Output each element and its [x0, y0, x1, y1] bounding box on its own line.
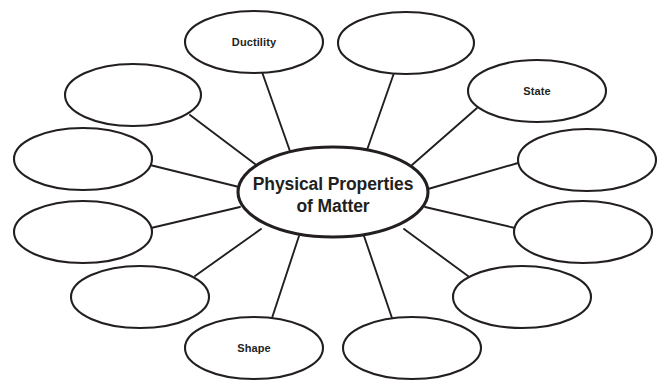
connector-line [262, 72, 291, 154]
blank-node[interactable] [343, 317, 481, 379]
node-ellipse[interactable] [71, 266, 209, 328]
center-node-label-line2: of Matter [297, 196, 370, 216]
node-label: State [523, 85, 550, 97]
connector-line [364, 236, 392, 318]
connector-line [195, 229, 261, 276]
connector-line [425, 207, 515, 228]
blank-node[interactable] [71, 266, 209, 328]
node-ellipse[interactable] [14, 128, 152, 190]
node-ellipse[interactable] [343, 317, 481, 379]
blank-node[interactable] [65, 64, 201, 126]
connector-line [367, 73, 394, 150]
connector-line [428, 163, 518, 189]
labeled-node[interactable]: Ductility [185, 11, 323, 73]
bubble-map-diagram: DuctilityStateShape Physical Properties … [0, 0, 668, 386]
center-node[interactable]: Physical Properties of Matter [238, 147, 428, 237]
blank-node[interactable] [453, 266, 591, 328]
connector-line [412, 108, 477, 165]
labeled-node[interactable]: State [468, 60, 606, 122]
connector-line [151, 207, 240, 228]
blank-node[interactable] [518, 129, 656, 191]
bubble-map-canvas: DuctilityStateShape Physical Properties … [0, 0, 668, 386]
connector-line [404, 229, 468, 276]
node-label: Ductility [232, 36, 277, 48]
blank-node[interactable] [14, 128, 152, 190]
node-label: Shape [237, 342, 271, 354]
node-ellipse[interactable] [518, 129, 656, 191]
node-ellipse[interactable] [14, 201, 152, 263]
blank-node[interactable] [14, 201, 152, 263]
node-ellipse[interactable] [338, 12, 474, 74]
labeled-node[interactable]: Shape [185, 317, 323, 379]
node-ellipse[interactable] [65, 64, 201, 126]
center-node-label-line1: Physical Properties [253, 174, 414, 194]
connector-line [190, 115, 255, 164]
blank-node[interactable] [338, 12, 474, 74]
blank-node[interactable] [514, 201, 652, 263]
node-ellipse[interactable] [514, 201, 652, 263]
connector-line [150, 165, 239, 187]
connector-line [272, 236, 299, 318]
node-ellipse[interactable] [453, 266, 591, 328]
